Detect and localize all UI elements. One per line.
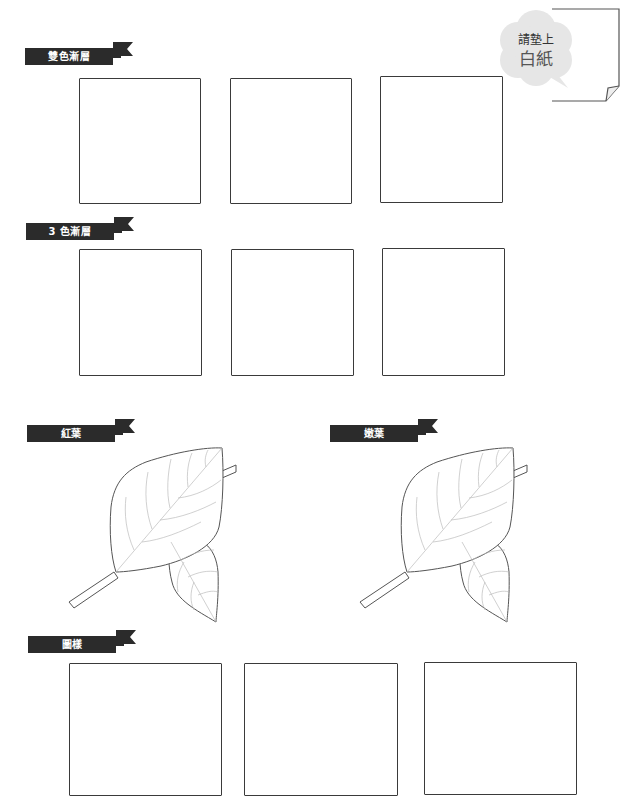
gradient-box-4[interactable] <box>79 249 202 376</box>
ribbon-flag-icon <box>114 217 134 233</box>
ribbon-flag-icon <box>116 630 136 646</box>
note-text-line2: 白紙 <box>496 45 576 70</box>
gradient-box-6[interactable] <box>382 248 505 376</box>
section-label-patterns: 圖樣 <box>28 636 138 653</box>
ribbon-bar: 圖樣 <box>28 636 116 653</box>
section-label-three-color-gradient: 3 色漸層 <box>26 223 136 240</box>
pattern-box-3[interactable] <box>424 662 577 795</box>
gradient-box-1[interactable] <box>79 78 201 204</box>
pattern-box-1[interactable] <box>69 663 222 796</box>
gradient-box-3[interactable] <box>380 76 503 203</box>
leaf-illustration-young[interactable] <box>357 432 537 624</box>
ribbon-bar: 3 色漸層 <box>26 223 114 240</box>
gradient-box-5[interactable] <box>231 249 354 376</box>
gradient-box-2[interactable] <box>230 78 352 204</box>
leaf-illustration-red[interactable] <box>66 432 246 624</box>
pattern-box-2[interactable] <box>244 663 398 796</box>
ribbon-flag-icon <box>113 42 133 58</box>
ribbon-bar: 雙色漸層 <box>25 48 113 65</box>
section-label-two-color-gradient: 雙色漸層 <box>25 48 135 65</box>
